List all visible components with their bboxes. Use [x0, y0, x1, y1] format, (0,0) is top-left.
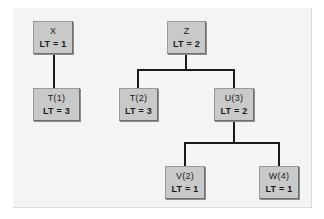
edge-u3-trunk: [233, 121, 235, 143]
edge-u3-to-v2: [184, 142, 186, 167]
tree-node-u3-label: U(3): [225, 93, 243, 103]
tree-node-t2-label: T(2): [130, 93, 147, 103]
tree-node-x[interactable]: X LT = 1: [33, 21, 73, 54]
edge-z-to-t2: [137, 69, 139, 89]
tree-node-v2[interactable]: V(2) LT = 1: [165, 166, 205, 199]
tree-node-v2-lt: LT = 1: [172, 184, 199, 194]
tree-node-t2[interactable]: T(2) LT = 3: [119, 88, 158, 121]
tree-node-u3-lt: LT = 2: [221, 106, 248, 116]
edge-z-bus: [137, 69, 235, 71]
tree-node-z[interactable]: Z LT = 2: [167, 21, 206, 54]
edge-x-to-t1: [53, 54, 55, 89]
diagram-panel: X LT = 1 T(1) LT = 3 Z LT = 2 T(2) LT = …: [13, 8, 312, 208]
tree-node-t2-lt: LT = 3: [125, 106, 152, 116]
tree-node-t1[interactable]: T(1) LT = 3: [33, 88, 80, 121]
tree-node-z-lt: LT = 2: [173, 39, 200, 49]
tree-node-w4-label: W(4): [269, 171, 289, 181]
edge-z-to-u3: [233, 69, 235, 89]
tree-node-t1-lt: LT = 3: [43, 106, 70, 116]
tree-node-z-label: Z: [184, 26, 190, 36]
tree-node-t1-label: T(1): [48, 93, 65, 103]
tree-node-u3[interactable]: U(3) LT = 2: [214, 88, 254, 121]
tree-node-x-lt: LT = 1: [40, 39, 67, 49]
tree-diagram-figure: X LT = 1 T(1) LT = 3 Z LT = 2 T(2) LT = …: [0, 0, 324, 219]
tree-node-w4[interactable]: W(4) LT = 1: [259, 166, 299, 199]
tree-node-x-label: X: [50, 26, 56, 36]
edge-z-trunk: [185, 54, 187, 70]
tree-node-w4-lt: LT = 1: [266, 184, 293, 194]
edge-u3-bus: [184, 142, 280, 144]
edge-u3-to-w4: [278, 142, 280, 167]
tree-node-v2-label: V(2): [176, 171, 194, 181]
